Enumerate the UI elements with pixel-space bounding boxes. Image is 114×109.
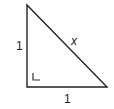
triangle-diagram: 1 x 1 bbox=[0, 0, 114, 109]
hypotenuse-label: x bbox=[70, 34, 78, 48]
triangle-svg: 1 x 1 bbox=[0, 0, 114, 109]
right-triangle-shape bbox=[27, 5, 107, 87]
right-angle-marker-icon bbox=[33, 73, 40, 80]
bottom-side-label: 1 bbox=[64, 92, 71, 106]
left-side-label: 1 bbox=[16, 39, 23, 53]
